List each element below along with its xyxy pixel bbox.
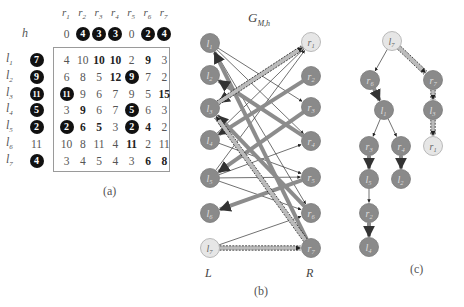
caption-c: (c) [410,262,423,277]
right-side-label: R [306,266,313,281]
left-side-label: L [205,266,212,281]
tree-edge-l7-r7-dash-a [397,49,424,74]
tree-edge-l1-r3 [373,119,380,137]
path-edge-l3-r1-dash-a [219,50,303,105]
path-edge-r7-l3-head [216,117,305,241]
panel-b-graph: l1l2l3l4l5l6l7r1r2r3r4r5r6r7l7r6r7l1l3r3… [0,0,464,307]
path-edge-r7-l3-dash-b [214,118,303,242]
caption-b: (b) [254,284,268,299]
tree-edge-l7-r7-dash-b [400,46,427,71]
matching-edge-r7-l1 [215,52,307,239]
graph-title-main: G [248,10,257,25]
graph-title-sub: M,h [257,19,270,28]
tree-edge-l7-r6 [375,49,387,71]
graph-title: GM,h [248,10,270,28]
tree-edge-l7-r7-head [399,48,426,73]
tree-edge-l1-r4 [388,119,396,137]
tree-edge-r6-l1 [374,89,380,101]
